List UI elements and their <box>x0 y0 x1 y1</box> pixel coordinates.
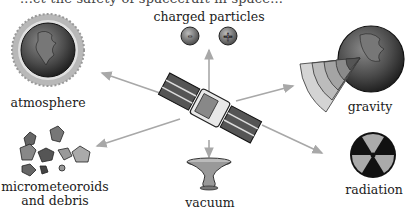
arrow-radiation <box>262 125 322 153</box>
arrow-debris <box>97 119 180 146</box>
svg-text:+: + <box>223 29 234 44</box>
label-gravity: gravity <box>330 100 410 114</box>
label-vacuum: vacuum <box>170 196 250 210</box>
micrometeoroids-icon <box>20 126 90 176</box>
label-radiation: radiation <box>335 183 413 197</box>
label-charged-particles: charged particles <box>148 10 270 24</box>
arrow-atmosphere <box>102 73 160 93</box>
arrow-gravity <box>236 86 293 101</box>
satellite-icon <box>158 71 263 145</box>
label-debris: and debris <box>0 194 110 208</box>
label-atmosphere: atmosphere <box>6 96 90 110</box>
label-micrometeoroids: micrometeoroids <box>0 180 110 194</box>
svg-text:-: - <box>188 28 193 43</box>
vacuum-icon <box>187 158 231 190</box>
charged-particles-icon: - + <box>181 27 237 45</box>
atmosphere-globe-icon <box>12 14 84 86</box>
radiation-icon <box>350 132 396 178</box>
